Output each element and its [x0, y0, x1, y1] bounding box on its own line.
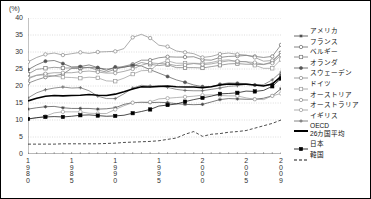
legend-item[interactable]: OECD26カ国平均: [293, 122, 369, 139]
legend-label: オーストラリア: [309, 101, 359, 109]
legend-item[interactable]: オランダ: [293, 59, 369, 69]
legend-item[interactable]: スウェーデン: [293, 69, 369, 79]
x-axis-tick: 2000: [198, 158, 206, 184]
x-axis-tick: 1980: [24, 158, 32, 184]
legend-marker-icon: [293, 48, 309, 58]
y-axis-tick: 5: [5, 133, 23, 140]
series-オーストリア: [28, 53, 281, 79]
chart-container: (%) 4035302520151050 1980198519901995200…: [0, 0, 371, 199]
legend-item[interactable]: オーストラリア: [293, 101, 369, 111]
x-axis-tick: 2009: [277, 158, 285, 184]
series-アメリカ: [28, 87, 281, 111]
legend-item[interactable]: フランス: [293, 38, 369, 48]
legend-marker-icon: [293, 151, 309, 161]
plot-area: [28, 18, 281, 154]
y-axis-tick: 40: [5, 14, 23, 21]
legend-item[interactable]: ベルギー: [293, 48, 369, 58]
y-axis-tick: 10: [5, 116, 23, 123]
legend-item[interactable]: 韓国: [293, 151, 369, 161]
legend-label: オランダ: [309, 59, 338, 67]
legend-label: フランス: [309, 38, 338, 46]
y-axis-tick: 25: [5, 65, 23, 72]
legend-item[interactable]: ドイツ: [293, 80, 369, 90]
legend-label-line2: 26カ国平均: [309, 130, 345, 138]
y-axis-tick: 20: [5, 82, 23, 89]
legend-marker-icon: [293, 140, 309, 150]
legend-label: スウェーデン: [309, 69, 352, 77]
legend-marker-icon: [293, 101, 309, 111]
legend-marker-icon: [293, 112, 309, 122]
legend-item[interactable]: オーストリア: [293, 91, 369, 101]
legend-marker-icon: [293, 59, 309, 69]
legend-label: オーストリア: [309, 91, 352, 99]
legend-label: 韓国: [309, 151, 324, 159]
legend-marker-icon: [293, 91, 309, 101]
chart-legend: アメリカフランスベルギーオランダスウェーデンドイツオーストリアオーストラリアイギ…: [293, 27, 369, 161]
chart-svg: [28, 18, 281, 154]
legend-marker-icon: [293, 122, 309, 132]
legend-label: アメリカ: [309, 27, 338, 35]
legend-item[interactable]: 日本: [293, 140, 369, 150]
legend-marker-icon: [293, 38, 309, 48]
series-韓国: [28, 120, 281, 144]
x-axis-tick: 2005: [242, 158, 250, 184]
legend-marker-icon: [293, 69, 309, 79]
legend-marker-icon: [293, 80, 309, 90]
legend-label: ドイツ: [309, 80, 331, 88]
y-axis-tick: 35: [5, 31, 23, 38]
x-axis-tick: 1990: [111, 158, 119, 184]
legend-label: 日本: [309, 140, 324, 148]
legend-marker-icon: [293, 27, 309, 37]
y-axis-unit-label: (%): [9, 5, 20, 12]
legend-item[interactable]: アメリカ: [293, 27, 369, 37]
x-axis-tick: 1995: [155, 158, 163, 184]
y-axis-tick: 30: [5, 48, 23, 55]
y-axis-tick: 15: [5, 99, 23, 106]
legend-label: イギリス: [309, 112, 338, 120]
x-axis-tick: 1985: [68, 158, 76, 184]
legend-item[interactable]: イギリス: [293, 112, 369, 122]
y-axis-tick: 0: [5, 150, 23, 157]
legend-label: ベルギー: [309, 48, 338, 56]
